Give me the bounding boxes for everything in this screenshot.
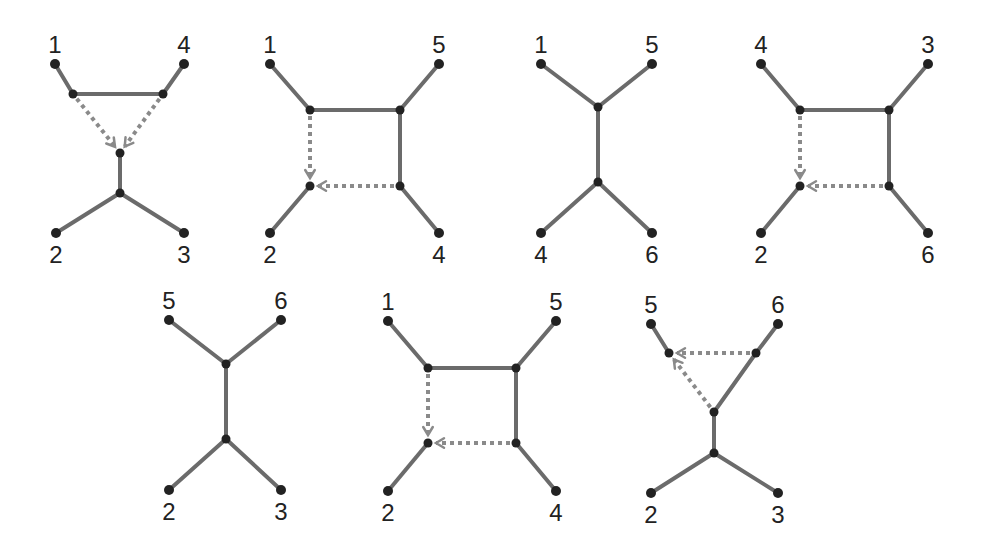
taxon-label: 1 xyxy=(381,288,394,315)
leaf-node xyxy=(551,486,561,496)
leaf-node xyxy=(773,319,783,329)
tree-edge xyxy=(889,64,928,110)
taxon-label: 2 xyxy=(644,501,657,528)
network-diagram-7 xyxy=(646,319,783,498)
internal-node xyxy=(796,182,805,191)
internal-node xyxy=(796,106,805,115)
leaf-node xyxy=(434,59,444,69)
leaf-node xyxy=(647,228,657,238)
taxon-label: 6 xyxy=(274,287,287,314)
tree-edge xyxy=(714,353,756,412)
taxon-label: 4 xyxy=(177,31,190,58)
leaf-node xyxy=(50,59,60,69)
taxon-label: 5 xyxy=(432,31,445,58)
tree-edge xyxy=(714,453,778,493)
tree-edge xyxy=(163,64,184,94)
leaf-node xyxy=(179,228,189,238)
leaf-node xyxy=(164,485,174,495)
taxon-label: 6 xyxy=(921,241,934,268)
leaf-node xyxy=(51,228,61,238)
taxon-label: 3 xyxy=(921,31,934,58)
leaf-node xyxy=(773,488,783,498)
tree-edge xyxy=(541,64,598,107)
leaf-node xyxy=(383,486,393,496)
leaf-node xyxy=(383,316,393,326)
internal-node xyxy=(752,349,761,358)
tree-edge xyxy=(761,186,800,233)
leaf-node xyxy=(646,319,656,329)
network-diagram-2 xyxy=(265,59,444,238)
tree-edge xyxy=(889,186,928,233)
taxon-label: 5 xyxy=(549,288,562,315)
arrowhead-icon xyxy=(808,181,816,191)
taxon-label: 3 xyxy=(771,501,784,528)
leaf-node xyxy=(923,59,933,69)
internal-node xyxy=(665,349,674,358)
leaf-node xyxy=(756,59,766,69)
tree-edge xyxy=(756,324,778,353)
taxon-label: 2 xyxy=(49,241,62,268)
tree-edge xyxy=(598,64,652,107)
taxon-label: 2 xyxy=(381,499,394,526)
taxon-label: 1 xyxy=(534,31,547,58)
network-diagram-4 xyxy=(756,59,933,238)
internal-node xyxy=(69,90,78,99)
tree-edge xyxy=(55,64,73,94)
leaf-node xyxy=(265,228,275,238)
internal-node xyxy=(594,178,603,187)
leaf-node xyxy=(179,59,189,69)
tree-edge xyxy=(120,193,184,233)
tree-edge xyxy=(388,321,428,368)
leaf-node xyxy=(647,59,657,69)
tree-edge xyxy=(270,186,310,233)
tree-edge xyxy=(169,439,226,490)
leaf-node xyxy=(756,228,766,238)
taxon-label: 2 xyxy=(263,241,276,268)
tree-edge xyxy=(169,320,226,364)
reticulation-edge xyxy=(125,99,160,147)
network-diagrams: 1423152415464326562315245623 xyxy=(0,0,983,554)
taxon-label: 5 xyxy=(644,291,657,318)
taxon-label: 5 xyxy=(645,31,658,58)
network-diagram-3 xyxy=(536,59,657,238)
reticulation-edge xyxy=(77,99,115,147)
leaf-node xyxy=(536,228,546,238)
taxon-label: 4 xyxy=(754,31,767,58)
tree-edge xyxy=(541,182,598,233)
network-diagram-1 xyxy=(50,59,189,238)
taxon-label: 6 xyxy=(771,291,784,318)
internal-node xyxy=(710,449,719,458)
internal-node xyxy=(594,103,603,112)
taxon-label: 3 xyxy=(177,241,190,268)
leaf-node xyxy=(434,228,444,238)
tree-edge xyxy=(226,439,281,490)
leaf-node xyxy=(536,59,546,69)
leaf-node xyxy=(164,315,174,325)
tree-edge xyxy=(400,186,439,233)
taxon-label: 2 xyxy=(754,241,767,268)
network-diagram-5 xyxy=(164,315,286,495)
taxon-label: 1 xyxy=(263,31,276,58)
taxon-label: 4 xyxy=(534,241,547,268)
taxon-label: 4 xyxy=(549,499,562,526)
taxon-label: 2 xyxy=(162,498,175,525)
internal-node xyxy=(306,182,315,191)
leaf-node xyxy=(646,488,656,498)
network-diagram-6 xyxy=(383,316,561,496)
tree-edge xyxy=(651,324,669,353)
internal-node xyxy=(424,364,433,373)
leaf-node xyxy=(265,59,275,69)
internal-node xyxy=(512,364,521,373)
leaf-node xyxy=(276,485,286,495)
tree-edge xyxy=(516,443,556,491)
internal-node xyxy=(424,439,433,448)
internal-node xyxy=(159,90,168,99)
tree-edge xyxy=(598,182,652,233)
internal-node xyxy=(396,106,405,115)
taxon-label: 3 xyxy=(274,498,287,525)
tree-edge xyxy=(400,64,439,110)
tree-edge xyxy=(761,64,800,110)
tree-edge xyxy=(56,193,120,233)
tree-edge xyxy=(388,443,428,491)
internal-node xyxy=(306,106,315,115)
